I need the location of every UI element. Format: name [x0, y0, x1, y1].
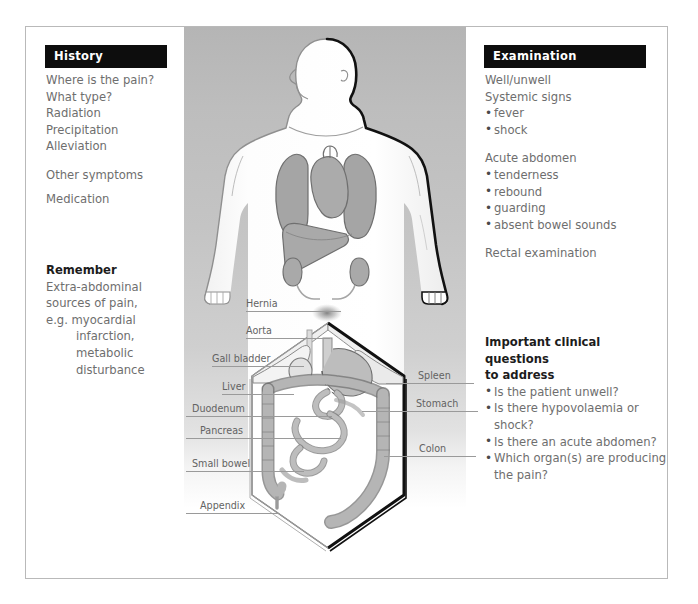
remember-line-1: sources of pain,	[46, 295, 186, 312]
leader-liver	[222, 394, 294, 395]
label-aorta: Aorta	[246, 325, 272, 336]
history-item-0: Where is the pain?	[46, 72, 181, 89]
remember-line-2: e.g. myocardial	[46, 312, 186, 329]
leader-small-bowel	[186, 471, 304, 472]
hernia-marker	[312, 304, 342, 322]
remember-line-3: infarction,	[46, 328, 186, 345]
remember-line-0: Extra-abdominal	[46, 279, 186, 296]
label-duodenum: Duodenum	[192, 403, 245, 414]
clinical-questions-title-line2: to address	[485, 367, 665, 384]
examination-acute-abdomen: Acute abdomen	[485, 150, 660, 167]
history-item-4: Alleviation	[46, 138, 181, 155]
label-small-bowel: Small bowel	[192, 458, 250, 469]
clinical-question-3: Which organ(s) are producing the pain?	[485, 450, 665, 483]
history-header: History	[45, 45, 167, 68]
examination-systemic-item-1: shock	[485, 122, 660, 139]
examination-acute-item-3: absent bowel sounds	[485, 217, 660, 234]
label-colon: Colon	[419, 443, 446, 454]
clinical-question-1-line-0: Is there hypovolaemia or	[494, 401, 639, 415]
examination-rectal: Rectal examination	[485, 245, 660, 262]
label-pancreas: Pancreas	[200, 425, 243, 436]
clinical-question-3-line-1: the pain?	[494, 467, 665, 484]
history-medication: Medication	[46, 191, 181, 208]
label-spleen: Spleen	[418, 370, 451, 381]
leader-spleen	[386, 383, 474, 384]
examination-header: Examination	[484, 45, 646, 68]
history-item-2: Radiation	[46, 105, 181, 122]
history-content: Where is the pain? What type? Radiation …	[46, 72, 181, 207]
leader-hernia	[246, 311, 341, 312]
history-item-1: What type?	[46, 89, 181, 106]
leader-appendix	[186, 513, 278, 514]
remember-line-5: disturbance	[46, 362, 186, 379]
leader-aorta	[246, 338, 330, 339]
examination-acute-item-0: tenderness	[485, 167, 660, 184]
leader-pancreas	[186, 438, 341, 439]
examination-acute-item-1: rebound	[485, 184, 660, 201]
clinical-questions-block: Important clinical questions to address …	[485, 334, 665, 483]
leader-stomach	[362, 411, 478, 412]
clinical-question-1-line-1: shock?	[494, 417, 665, 434]
remember-block: Remember Extra-abdominal sources of pain…	[46, 262, 186, 378]
label-gall-bladder: Gall bladder	[212, 353, 270, 364]
history-other-symptoms: Other symptoms	[46, 167, 181, 184]
label-hernia: Hernia	[246, 298, 278, 309]
page-root: History Where is the pain? What type? Ra…	[0, 0, 698, 604]
leader-gall-bladder	[212, 366, 304, 367]
clinical-question-0: Is the patient unwell?	[485, 384, 665, 401]
remember-line-4: metabolic	[46, 345, 186, 362]
clinical-question-2: Is there an acute abdomen?	[485, 434, 665, 451]
leader-duodenum	[186, 416, 332, 417]
examination-acute-item-2: guarding	[485, 200, 660, 217]
label-liver: Liver	[222, 381, 246, 392]
examination-well-unwell: Well/unwell	[485, 72, 660, 89]
clinical-question-2-line-0: Is there an acute abdomen?	[494, 435, 657, 449]
examination-systemic-item-0: fever	[485, 105, 660, 122]
examination-systemic-signs: Systemic signs	[485, 89, 660, 106]
clinical-questions-title-line1: Important clinical questions	[485, 334, 665, 367]
examination-content: Well/unwell Systemic signs fever shock A…	[485, 72, 660, 262]
leader-colon	[384, 456, 476, 457]
clinical-question-1: Is there hypovolaemia or shock?	[485, 400, 665, 433]
remember-title: Remember	[46, 262, 186, 279]
clinical-question-3-line-0: Which organ(s) are producing	[494, 451, 666, 465]
label-appendix: Appendix	[200, 500, 245, 511]
label-stomach: Stomach	[416, 398, 458, 409]
history-item-3: Precipitation	[46, 122, 181, 139]
clinical-question-0-line-0: Is the patient unwell?	[494, 385, 619, 399]
